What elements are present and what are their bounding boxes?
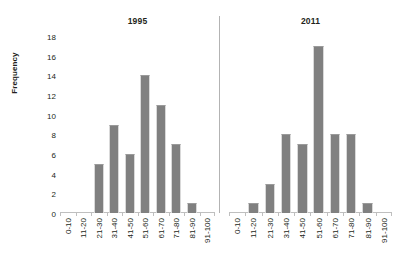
x-tick-label: 71-80 [172,218,181,238]
bar-slot [169,36,185,213]
x-tick-label: 51-60 [141,218,150,238]
x-label-slot: 81-90 [359,216,375,262]
bar-slot [122,36,138,213]
bar-slot [76,36,92,213]
plot-area-2011 [229,36,392,213]
y-tick-label: 16 [32,54,56,62]
x-label-slot: 71-80 [169,216,185,262]
x-label-slot: 0-10 [229,216,245,262]
x-label-slot: 61-70 [153,216,169,262]
bar[interactable] [265,184,275,214]
bar-slot [60,36,76,213]
x-label-slot: 31-40 [278,216,294,262]
x-tick-label: 31-40 [282,218,291,238]
bar[interactable] [125,154,135,213]
bar-slot [107,36,123,213]
y-tick-label: 12 [32,93,56,101]
bar-slot [343,36,359,213]
bar-slot [91,36,107,213]
panel-divider [219,16,220,213]
x-label-slot: 11-20 [245,216,261,262]
x-tick-label: 21-30 [265,218,274,238]
x-tick-label: 71-80 [347,218,356,238]
x-tick-label: 91-100 [379,218,388,243]
plot-area-1995 [60,36,215,213]
y-tick-label: 8 [32,132,56,140]
x-label-slot: 91-100 [200,216,216,262]
x-label-slot: 61-70 [327,216,343,262]
bar-slot [229,36,245,213]
bar[interactable] [297,144,307,213]
x-label-slot: 21-30 [91,216,107,262]
bar[interactable] [171,144,181,213]
x-label-slot: 51-60 [138,216,154,262]
x-tick-label: 81-90 [363,218,372,238]
histogram-figure: Frequency 181614121086420 1995 0-1011-20… [0,0,400,270]
bar[interactable] [330,134,340,213]
y-tick-label: 0 [32,211,56,219]
bar-slot [184,36,200,213]
x-tick-label: 41-50 [125,218,134,238]
bar[interactable] [94,164,104,213]
x-label-slot: 21-30 [262,216,278,262]
bar[interactable] [281,134,291,213]
bar-slot [376,36,392,213]
x-axis-labels-2011: 0-1011-2021-3031-4041-5051-6061-7071-808… [229,216,392,262]
bar[interactable] [109,125,119,214]
bar-slot [278,36,294,213]
x-tick-label: 81-90 [187,218,196,238]
x-tick-label: 31-40 [110,218,119,238]
y-tick-label: 2 [32,191,56,199]
x-label-slot: 0-10 [60,216,76,262]
panel-title-2011: 2011 [229,16,392,26]
x-label-slot: 41-50 [294,216,310,262]
y-tick-label: 4 [32,172,56,180]
x-label-slot: 51-60 [310,216,326,262]
x-tick-label: 0-10 [233,218,242,234]
y-tick-label: 18 [32,34,56,42]
x-label-slot: 11-20 [76,216,92,262]
panel-2011: 2011 0-1011-2021-3031-4041-5051-6061-707… [229,16,392,213]
bar-slot [359,36,375,213]
panel-1995: 1995 0-1011-2021-3031-4041-5051-6061-707… [60,16,215,213]
x-label-slot: 91-100 [376,216,392,262]
bar-slot [310,36,326,213]
x-tick-label: 61-70 [156,218,165,238]
bar[interactable] [362,203,372,213]
x-tick-label: 51-60 [314,218,323,238]
y-tick-label: 6 [32,152,56,160]
bar-slot [153,36,169,213]
x-axis-labels-1995: 0-1011-2021-3031-4041-5051-6061-7071-808… [60,216,215,262]
bar-slot [200,36,216,213]
x-label-slot: 81-90 [184,216,200,262]
bar[interactable] [248,203,258,213]
bar[interactable] [140,75,150,213]
x-tick-label: 0-10 [63,218,72,234]
x-tick-label: 11-20 [79,218,88,238]
bar-slot [262,36,278,213]
bar[interactable] [156,105,166,213]
y-axis-title: Frequency [8,28,22,118]
x-label-slot: 31-40 [107,216,123,262]
y-axis-tick-labels: 181614121086420 [32,30,56,220]
y-tick-label: 10 [32,113,56,121]
x-tick-label: 61-70 [330,218,339,238]
bar[interactable] [313,46,323,213]
x-label-slot: 71-80 [343,216,359,262]
x-tick-label: 11-20 [249,218,258,238]
bar-slot [138,36,154,213]
x-tick-label: 21-30 [94,218,103,238]
x-tick-label: 91-100 [203,218,212,243]
bar-slot [294,36,310,213]
panel-title-1995: 1995 [60,16,215,26]
x-label-slot: 41-50 [122,216,138,262]
bar[interactable] [346,134,356,213]
x-tick-label: 41-50 [298,218,307,238]
bar[interactable] [187,203,197,213]
y-tick-label: 14 [32,73,56,81]
bar-slot [245,36,261,213]
bar-slot [327,36,343,213]
